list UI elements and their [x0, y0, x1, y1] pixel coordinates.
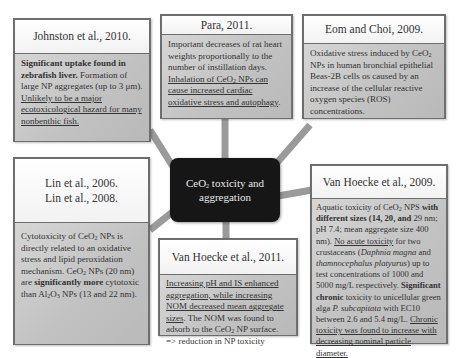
connector-eom	[275, 125, 310, 165]
vanhoecke2011-box: Van Hoecke et al., 2011. Increasing pH a…	[158, 238, 298, 336]
eom-body-sub: 2	[428, 52, 431, 58]
vanhoecke2011-header: Van Hoecke et al., 2011.	[160, 240, 296, 275]
vh09-t8: and	[416, 247, 431, 257]
eom-body-suffix: NPs in human bronchial epithelial Beas-2…	[310, 60, 433, 116]
vh09-t5: No acute toxicity	[334, 236, 393, 246]
eom-header-text: Eom and Choi, 2009.	[325, 22, 423, 36]
eom-body: Oxidative stress induced by CeO2 NPs in …	[304, 44, 444, 118]
vh09-t9: thamnocephalus platyurus	[316, 258, 407, 268]
vanhoecke2009-header-text: Van Hoecke et al., 2009.	[323, 175, 436, 189]
johnston-header-text: Johnston et al., 2010.	[33, 29, 131, 43]
eom-box: Eom and Choi, 2009. Oxidative stress ind…	[302, 14, 446, 119]
para-underline-prefix: Inhalation of CeO	[168, 74, 233, 84]
para-body-underline: Inhalation of CeO2 NPs can cause increas…	[168, 74, 278, 107]
vanhoecke2011-body: Increasing pH and IS enhanced aggregatio…	[160, 275, 296, 335]
lin-p1-prefix: Cytotoxicity of CeO	[21, 231, 95, 241]
central-topic-node: CeO2 toxicity and aggregation	[170, 158, 280, 222]
vh09-t2: NPS	[402, 202, 422, 212]
lin-p2-bold: significantly more	[34, 277, 103, 287]
para-box: Para, 2011. Important decreases of rat h…	[160, 14, 293, 119]
johnston-header: Johnston et al., 2010.	[15, 20, 149, 54]
center-title-suffix: toxicity and	[209, 177, 264, 189]
johnston-box: Johnston et al., 2010. Significant uptak…	[13, 18, 151, 142]
vanhoecke2009-header: Van Hoecke et al., 2009.	[312, 166, 446, 199]
vanhoecke2009-body: Aquatic toxicity of CeO2 NPS with differ…	[312, 199, 446, 343]
center-title-prefix: CeO	[186, 177, 206, 189]
vh09-t1: Aquatic toxicity of CeO	[316, 202, 399, 212]
vanhoecke2009-box: Van Hoecke et al., 2009. Aquatic toxicit…	[310, 164, 448, 344]
para-header-text: Para, 2011.	[201, 18, 253, 32]
para-body: Important decreases of rat heart weights…	[162, 35, 291, 118]
lin-header-line2: Lin et al., 2008.	[45, 191, 118, 205]
para-body-plain: Important decreases of rat heart weights…	[168, 39, 282, 72]
johnston-body: Significant uptake found in zebrafish li…	[15, 54, 149, 141]
lin-header: Lin et al., 2006. Lin et al., 2008.	[15, 159, 148, 223]
lin-p2-prefix: CeO	[64, 266, 83, 276]
vh09-t7: Daphnia magna	[361, 247, 417, 257]
johnston-body-underline: Unlikely to be a major ecotoxicological …	[21, 93, 142, 126]
para-header: Para, 2011.	[162, 16, 291, 35]
lin-p2-suffix: NPs (13 and 22 nm).	[60, 289, 137, 299]
center-title-line2: aggregation	[199, 191, 251, 203]
lin-body: Cytotoxicity of CeO2 NPs is directly rel…	[15, 223, 148, 344]
lin-box: Lin et al., 2006. Lin et al., 2008. Cyto…	[13, 157, 150, 345]
para-body-end: .	[278, 97, 280, 107]
vanhoecke2011-header-text: Van Hoecke et al., 2011.	[172, 250, 284, 264]
eom-body-prefix: Oxidative stress induced by CeO	[310, 48, 428, 58]
eom-header: Eom and Choi, 2009.	[304, 16, 444, 44]
connector-vanhoecke2009	[278, 190, 312, 196]
vh09-t13: P. subcapitata	[332, 303, 381, 313]
lin-header-line1: Lin et al., 2006.	[45, 176, 118, 190]
